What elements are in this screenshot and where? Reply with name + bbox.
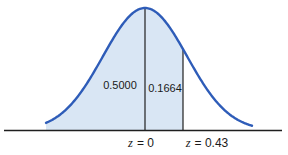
tick-z0-value: = 0 (137, 136, 154, 150)
axis-tick-z0: z= 0 (127, 136, 154, 150)
area-label-left: 0.5000 (103, 79, 137, 91)
shaded-area (46, 8, 183, 131)
normal-curve-figure: 0.5000 0.1664 z= 0 z= 0.43 (0, 0, 288, 155)
normal-curve-svg: 0.5000 0.1664 z= 0 z= 0.43 (0, 0, 288, 155)
area-label-middle: 0.1664 (148, 82, 182, 94)
axis-tick-z043: z= 0.43 (185, 136, 229, 150)
z-symbol: z (185, 136, 191, 150)
tick-z043-value: = 0.43 (195, 136, 229, 150)
z-symbol: z (127, 136, 133, 150)
